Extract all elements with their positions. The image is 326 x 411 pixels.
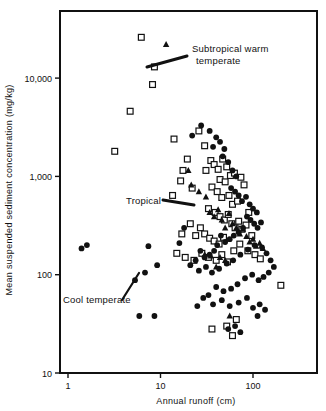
marker-square bbox=[182, 254, 188, 260]
marker-square bbox=[230, 333, 236, 339]
series-subtropical-warm-temperate bbox=[112, 34, 284, 338]
marker-circle bbox=[211, 248, 217, 254]
marker-circle bbox=[200, 295, 206, 301]
marker-circle bbox=[225, 326, 231, 332]
marker-square bbox=[170, 193, 176, 199]
marker-square bbox=[112, 148, 118, 154]
marker-circle bbox=[237, 252, 243, 258]
marker-circle bbox=[233, 174, 239, 180]
marker-circle bbox=[210, 301, 216, 307]
annotation-text: temperate bbox=[196, 55, 241, 66]
marker-circle bbox=[84, 242, 90, 248]
marker-circle bbox=[232, 323, 238, 329]
marker-circle bbox=[198, 123, 204, 129]
marker-circle bbox=[152, 313, 158, 319]
marker-circle bbox=[221, 288, 227, 294]
annotation-leader bbox=[147, 56, 187, 67]
marker-circle bbox=[239, 198, 245, 204]
marker-square bbox=[231, 248, 237, 254]
marker-circle bbox=[142, 270, 148, 276]
marker-square bbox=[241, 182, 247, 188]
marker-circle bbox=[258, 220, 264, 226]
marker-square bbox=[150, 82, 156, 88]
marker-circle bbox=[227, 303, 233, 309]
marker-triangle bbox=[222, 224, 228, 230]
x-axis-label: Annual runoff (cm) bbox=[156, 396, 235, 406]
marker-square bbox=[127, 108, 133, 114]
marker-circle bbox=[240, 225, 246, 231]
marker-circle bbox=[207, 252, 213, 258]
marker-circle bbox=[236, 193, 242, 199]
marker-square bbox=[226, 193, 232, 199]
marker-circle bbox=[236, 300, 242, 306]
marker-circle bbox=[254, 210, 260, 216]
x-tick-label: 1 bbox=[65, 381, 70, 391]
marker-circle bbox=[252, 242, 258, 248]
marker-square bbox=[215, 166, 221, 172]
marker-circle bbox=[213, 134, 219, 140]
marker-circle bbox=[214, 242, 220, 248]
marker-circle bbox=[196, 268, 202, 274]
y-tick-label: 10,000 bbox=[24, 74, 52, 84]
marker-circle bbox=[216, 266, 222, 272]
marker-triangle bbox=[227, 313, 233, 319]
marker-circle bbox=[207, 128, 213, 134]
marker-square bbox=[202, 143, 208, 149]
marker-square bbox=[209, 326, 215, 332]
marker-square bbox=[193, 233, 199, 239]
marker-circle bbox=[220, 153, 226, 159]
marker-circle bbox=[222, 239, 228, 245]
marker-square bbox=[257, 256, 263, 262]
marker-circle bbox=[244, 295, 250, 301]
marker-square bbox=[203, 168, 209, 174]
marker-circle bbox=[255, 225, 261, 231]
annotation-leader bbox=[163, 200, 194, 205]
marker-square bbox=[180, 168, 186, 174]
plot-border bbox=[60, 11, 317, 373]
annotation-text: Tropical bbox=[126, 195, 161, 206]
marker-circle bbox=[225, 159, 231, 165]
plot-frame bbox=[60, 11, 317, 373]
marker-circle bbox=[245, 247, 251, 253]
marker-circle bbox=[235, 281, 241, 287]
marker-circle bbox=[268, 257, 274, 263]
marker-circle bbox=[194, 303, 200, 309]
marker-square bbox=[174, 250, 180, 256]
marker-circle bbox=[203, 264, 209, 270]
x-tick-label: 10 bbox=[155, 381, 165, 391]
marker-square bbox=[198, 225, 204, 231]
marker-square bbox=[187, 221, 193, 227]
marker-circle bbox=[136, 313, 142, 319]
marker-circle bbox=[230, 168, 236, 174]
marker-circle bbox=[218, 233, 224, 239]
marker-square bbox=[214, 189, 220, 195]
marker-circle bbox=[237, 329, 243, 335]
marker-circle bbox=[176, 240, 182, 246]
y-tick-label: 100 bbox=[37, 270, 52, 280]
marker-circle bbox=[79, 246, 85, 252]
marker-square bbox=[219, 195, 225, 201]
marker-circle bbox=[261, 274, 267, 280]
y-tick-label: 10 bbox=[42, 369, 52, 379]
marker-square bbox=[171, 136, 177, 142]
marker-triangle bbox=[203, 193, 209, 199]
marker-square bbox=[196, 128, 202, 134]
marker-circle bbox=[202, 254, 208, 260]
y-tick-label: 1,000 bbox=[29, 172, 52, 182]
x-tick-label: 100 bbox=[245, 381, 260, 391]
scatter-plot-figure: 110100101001,00010,000 Subtropical warmt… bbox=[0, 0, 326, 411]
marker-circle bbox=[213, 284, 219, 290]
marker-circle bbox=[193, 257, 199, 263]
marker-circle bbox=[262, 307, 268, 313]
marker-circle bbox=[198, 248, 204, 254]
marker-square bbox=[233, 317, 239, 323]
marker-square bbox=[184, 156, 190, 162]
marker-circle bbox=[271, 264, 277, 270]
marker-square bbox=[222, 179, 228, 185]
marker-circle bbox=[264, 250, 270, 256]
y-axis-label: Mean suspended sediment concentration (m… bbox=[4, 84, 14, 295]
marker-circle bbox=[236, 229, 242, 235]
marker-square bbox=[236, 218, 242, 224]
marker-circle bbox=[224, 261, 230, 267]
marker-square bbox=[237, 241, 243, 247]
